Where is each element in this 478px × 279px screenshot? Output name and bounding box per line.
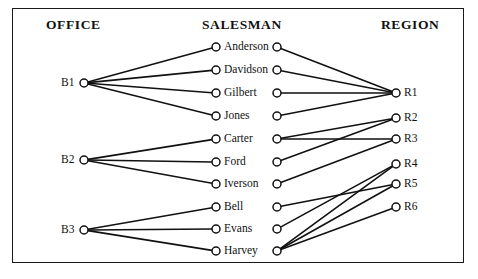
salesman-node-right-harvey[interactable] [273, 247, 281, 255]
office-node-B2[interactable] [80, 156, 88, 164]
edge-carter-R2 [281, 119, 392, 139]
salesman-node-right-iverson[interactable] [273, 180, 281, 188]
salesman-node-right-evans[interactable] [273, 225, 281, 233]
region-label-R6: R6 [404, 201, 417, 213]
salesman-node-right-ford[interactable] [273, 158, 281, 166]
salesman-node-left-evans[interactable] [212, 225, 220, 233]
salesman-node-left-carter[interactable] [212, 135, 220, 143]
edge-B2-carter [88, 140, 212, 160]
edge-iverson-R3 [281, 140, 393, 182]
region-label-R3: R3 [404, 133, 417, 145]
salesman-node-left-jones[interactable] [212, 112, 220, 120]
salesman-region-edges [280, 48, 393, 249]
salesman-node-right-anderson[interactable] [273, 43, 281, 51]
region-label-R4: R4 [404, 158, 417, 170]
region-label-R2: R2 [404, 112, 417, 124]
edge-anderson-R1 [281, 48, 393, 91]
salesman-label-davidson: Davidson [224, 64, 268, 76]
edge-ford-R2 [281, 119, 392, 160]
salesman-node-left-davidson[interactable] [212, 66, 220, 74]
office-label-B2: B2 [61, 154, 74, 166]
salesman-label-iverson: Iverson [224, 178, 259, 190]
edge-jones-R1 [281, 94, 392, 115]
diagram-page: OFFICE SALESMAN REGION B1B2B3AndersonDav… [0, 0, 478, 279]
edge-B3-bell [88, 208, 212, 230]
salesman-node-right-jones[interactable] [273, 112, 281, 120]
office-salesman-edges [88, 48, 212, 250]
office-label-B1: B1 [61, 77, 74, 89]
region-node-R1[interactable] [392, 89, 400, 97]
salesman-label-gilbert: Gilbert [224, 87, 257, 99]
salesman-node-left-anderson[interactable] [212, 43, 220, 51]
column-header-salesman: SALESMAN [202, 17, 282, 33]
salesman-node-left-ford[interactable] [212, 158, 220, 166]
edge-harvey-R4 [280, 166, 393, 248]
salesman-node-right-davidson[interactable] [273, 66, 281, 74]
salesman-label-bell: Bell [224, 201, 243, 213]
column-header-region: REGION [381, 17, 439, 33]
office-node-B3[interactable] [80, 226, 88, 234]
salesman-label-jones: Jones [224, 110, 250, 122]
edge-harvey-R6 [281, 208, 392, 249]
salesman-node-left-gilbert[interactable] [212, 89, 220, 97]
region-node-R4[interactable] [392, 160, 400, 168]
region-node-R2[interactable] [392, 114, 400, 122]
salesman-node-right-carter[interactable] [273, 135, 281, 143]
region-label-R1: R1 [404, 87, 417, 99]
salesman-label-harvey: Harvey [224, 245, 258, 257]
office-node-B1[interactable] [80, 79, 88, 87]
salesman-node-left-bell[interactable] [212, 203, 220, 211]
edge-B3-evans [88, 229, 212, 230]
region-node-R5[interactable] [392, 180, 400, 188]
salesman-node-right-bell[interactable] [273, 203, 281, 211]
region-label-R5: R5 [404, 178, 417, 190]
salesman-label-evans: Evans [224, 223, 252, 235]
edge-davidson-R1 [281, 71, 392, 92]
salesman-node-right-gilbert[interactable] [273, 89, 281, 97]
edge-B2-iverson [88, 161, 212, 184]
salesman-label-carter: Carter [224, 133, 253, 145]
salesman-node-left-iverson[interactable] [212, 180, 220, 188]
region-node-R6[interactable] [392, 203, 400, 211]
column-header-office: OFFICE [46, 17, 101, 33]
region-node-R3[interactable] [392, 135, 400, 143]
edge-B2-ford [88, 160, 212, 162]
salesman-label-anderson: Anderson [224, 41, 269, 53]
salesman-node-left-harvey[interactable] [212, 247, 220, 255]
salesman-label-ford: Ford [224, 156, 246, 168]
office-label-B3: B3 [61, 224, 74, 236]
edge-B3-harvey [88, 231, 212, 251]
